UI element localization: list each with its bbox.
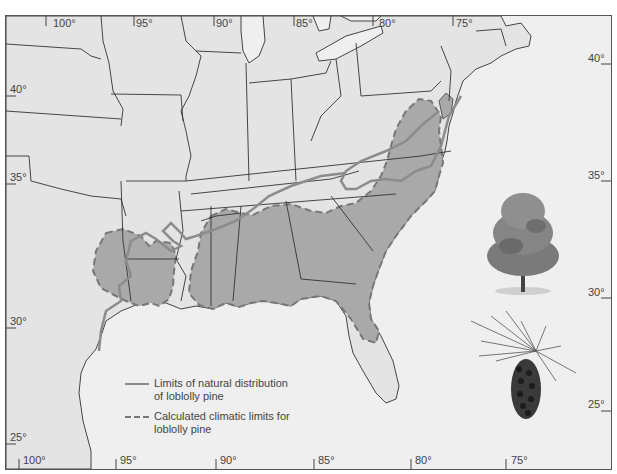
legend-label: loblolly pine [154,423,290,436]
lon-label-top: 80° [379,18,396,29]
map-svg [6,16,611,469]
lat-label-right: 30° [588,287,605,298]
lon-label-top: 90° [216,18,233,29]
legend-label: Calculated climatic limits for [154,410,290,423]
lat-label-right: 25° [588,399,605,410]
lat-label-left: 30° [10,316,27,327]
lon-label-bottom: 75° [511,455,528,466]
lat-label-left: 25° [10,432,27,443]
legend-label: Limits of natural distribution [154,377,288,390]
lat-label-right: 35° [588,170,605,181]
lon-label-bottom: 100° [23,455,46,466]
legend-item-climatic: Calculated climatic limits for loblolly … [125,410,290,436]
lon-label-top: 95° [136,18,153,29]
legend-label: of loblolly pine [154,390,288,403]
lon-label-top: 75° [456,18,473,29]
map-legend: Limits of natural distribution of loblol… [125,377,290,443]
lon-label-bottom: 85° [318,455,335,466]
lon-label-top: 85° [296,18,313,29]
lat-label-right: 40° [588,53,605,64]
lat-label-left: 35° [10,172,27,183]
lon-label-bottom: 80° [415,455,432,466]
lon-label-bottom: 90° [220,455,237,466]
map-frame: 100° 95° 90° 85° 80° 75° 100° 95° 90° 85… [5,15,612,470]
dashed-line-icon [125,416,149,425]
lon-label-bottom: 95° [120,455,137,466]
solid-line-icon [125,383,149,392]
lat-label-left: 40° [10,84,27,95]
lon-label-top: 100° [53,18,76,29]
legend-item-natural: Limits of natural distribution of loblol… [125,377,290,403]
